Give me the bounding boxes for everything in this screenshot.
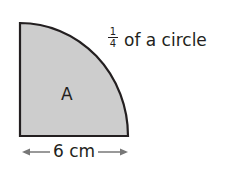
shape-caption: of a circle	[124, 30, 207, 50]
fraction-numerator: 1	[110, 26, 116, 37]
fraction-one-quarter: 1 4	[107, 26, 119, 49]
fraction-denominator: 4	[110, 38, 116, 49]
dimension-label: 6 cm	[50, 141, 98, 161]
region-label: A	[61, 84, 73, 104]
